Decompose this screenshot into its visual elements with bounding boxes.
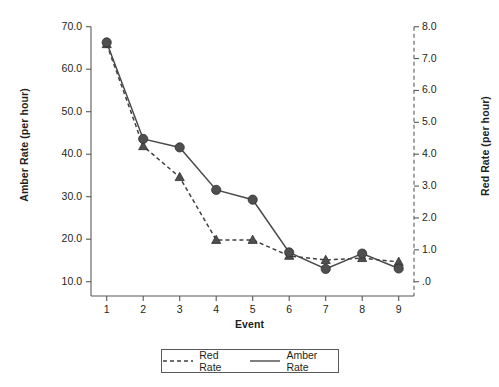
legend-label-red-rate: Red Rate: [199, 349, 240, 373]
chart-container: Amber Rate (per hour) Red Rate (per hour…: [0, 0, 499, 387]
right-axis-ticks: [414, 27, 419, 282]
data-point-circle: [212, 185, 221, 194]
data-point-circle: [394, 264, 403, 273]
axis-lines: [86, 27, 419, 301]
data-point-circle: [358, 249, 367, 258]
data-point-circle: [175, 143, 184, 152]
left-axis-ticks: [86, 27, 91, 282]
data-series-layer: [102, 38, 403, 274]
legend-item-red-rate: Red Rate: [162, 349, 240, 373]
x-axis-ticks: [107, 296, 399, 301]
data-point-circle: [139, 134, 148, 143]
series-red-rate: [102, 39, 403, 265]
legend-dashed-line-icon: [162, 356, 193, 366]
data-point-circle: [321, 264, 330, 273]
legend-solid-line-icon: [249, 356, 280, 366]
legend-item-amber-rate: Amber Rate: [249, 349, 338, 373]
data-point-circle: [248, 195, 257, 204]
legend-label-amber-rate: Amber Rate: [286, 349, 338, 373]
data-point-triangle: [175, 172, 184, 180]
data-point-circle: [285, 248, 294, 257]
data-point-circle: [102, 38, 111, 47]
series-line: [107, 44, 399, 262]
plot-area: [0, 0, 499, 387]
chart-legend: Red Rate Amber Rate: [161, 349, 339, 373]
